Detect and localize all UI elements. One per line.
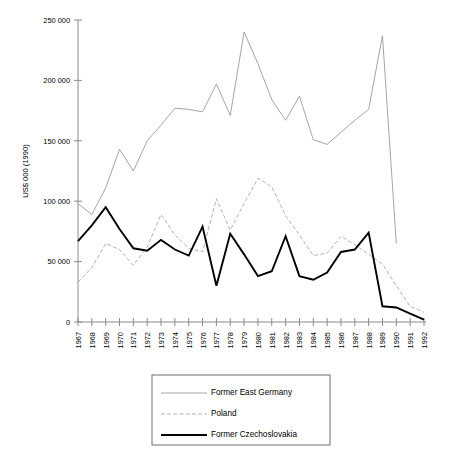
x-tick-label: 1986 xyxy=(337,332,346,348)
x-tick-label: 1973 xyxy=(157,332,166,348)
y-axis-title: US$ 000 (1990) xyxy=(21,144,30,198)
x-tick-label: 1984 xyxy=(309,332,318,348)
x-tick-label: 1988 xyxy=(365,332,374,348)
series-line-poland xyxy=(78,178,424,312)
line-chart: 050 000100 000150 000200 000250 000 US$ … xyxy=(0,0,452,466)
chart-legend: Former East GermanyPolandFormer Czechosl… xyxy=(152,375,330,445)
series-layer xyxy=(78,32,424,320)
series-line-former-czechoslovakia xyxy=(78,207,424,319)
y-tick-label: 250 000 xyxy=(43,16,70,25)
x-tick-label: 1978 xyxy=(226,332,235,348)
x-axis-ticks: 1967196819691970197119721973197419751976… xyxy=(74,318,429,348)
x-tick-label: 1980 xyxy=(254,332,263,348)
x-tick-label: 1987 xyxy=(351,332,360,348)
y-tick-label: 0 xyxy=(66,318,70,327)
x-tick-label: 1977 xyxy=(212,332,221,348)
x-tick-label: 1992 xyxy=(420,332,429,348)
series-line-former-east-germany xyxy=(78,32,396,243)
x-tick-label: 1975 xyxy=(185,332,194,348)
y-axis-ticks: 050 000100 000150 000200 000250 000 xyxy=(43,16,82,327)
y-tick-label: 50 000 xyxy=(47,257,70,266)
x-tick-label: 1979 xyxy=(240,332,249,348)
x-tick-label: 1983 xyxy=(295,332,304,348)
y-tick-label: 200 000 xyxy=(43,76,70,85)
x-tick-label: 1967 xyxy=(74,332,83,348)
x-tick-label: 1970 xyxy=(116,332,125,348)
x-tick-label: 1968 xyxy=(88,332,97,348)
x-tick-label: 1990 xyxy=(392,332,401,348)
x-tick-label: 1976 xyxy=(199,332,208,348)
x-tick-label: 1991 xyxy=(406,332,415,348)
x-tick-label: 1974 xyxy=(171,332,180,348)
y-tick-label: 100 000 xyxy=(43,197,70,206)
x-tick-label: 1982 xyxy=(282,332,291,348)
chart-container: 050 000100 000150 000200 000250 000 US$ … xyxy=(0,0,452,466)
x-tick-label: 1981 xyxy=(268,332,277,348)
legend-label-poland: Poland xyxy=(211,409,237,418)
x-tick-label: 1972 xyxy=(143,332,152,348)
x-axis-group: 1967196819691970197119721973197419751976… xyxy=(74,318,429,348)
x-tick-label: 1971 xyxy=(129,332,138,348)
x-tick-label: 1989 xyxy=(378,332,387,348)
y-axis-group: 050 000100 000150 000200 000250 000 US$ … xyxy=(21,16,82,327)
x-tick-label: 1985 xyxy=(323,332,332,348)
y-tick-label: 150 000 xyxy=(43,137,70,146)
legend-label-former-czechoslovakia: Former Czechoslovakia xyxy=(211,430,297,439)
x-tick-label: 1969 xyxy=(102,332,111,348)
legend-label-former-east-germany: Former East Germany xyxy=(211,388,293,397)
